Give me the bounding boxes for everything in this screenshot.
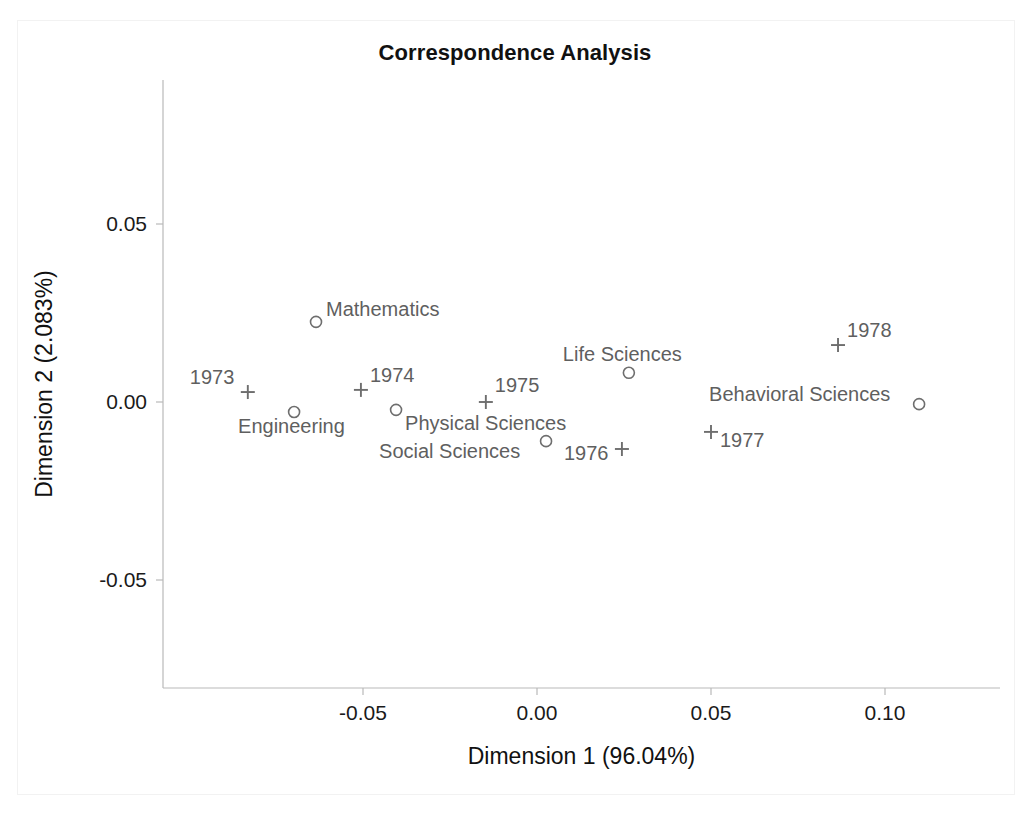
data-points-group: MathematicsEngineeringPhysical SciencesS…: [190, 298, 925, 464]
data-point-label: Engineering: [238, 415, 345, 437]
y-axis-tick-label: 0.00: [106, 390, 147, 413]
x-axis-tick-label: 0.10: [865, 701, 906, 724]
data-point-marker-circle[interactable]: [623, 367, 634, 378]
data-point-label: Mathematics: [326, 298, 439, 320]
data-point-label: Physical Sciences: [405, 412, 566, 434]
scatter-plot-canvas: -0.050.000.050.100.050.00-0.05 Mathemati…: [0, 0, 1030, 817]
data-point-label: Social Sciences: [379, 440, 520, 462]
data-point-marker-circle[interactable]: [391, 404, 402, 415]
data-point-label: 1975: [495, 374, 540, 396]
data-point-label: Life Sciences: [563, 343, 682, 365]
data-point-label: 1974: [370, 364, 415, 386]
y-axis-tick-label: 0.05: [106, 212, 147, 235]
data-point-label: 1978: [847, 319, 892, 341]
y-axis-tick-label: -0.05: [99, 568, 147, 591]
x-axis-tick-label: 0.00: [517, 701, 558, 724]
correspondence-analysis-figure: Correspondence Analysis -0.050.000.050.1…: [0, 0, 1030, 817]
data-point-label: Behavioral Sciences: [709, 383, 890, 405]
data-point-marker-circle[interactable]: [541, 436, 552, 447]
x-axis-title: Dimension 1 (96.04%): [468, 743, 696, 769]
y-axis-title: Dimension 2 (2.083%): [31, 270, 57, 498]
x-axis-tick-label: 0.05: [691, 701, 732, 724]
data-point-label: 1976: [564, 442, 609, 464]
data-point-marker-circle[interactable]: [311, 316, 322, 327]
x-axis-tick-label: -0.05: [339, 701, 387, 724]
data-point-label: 1977: [720, 429, 765, 451]
data-point-marker-circle[interactable]: [914, 399, 925, 410]
data-point-label: 1973: [190, 366, 235, 388]
